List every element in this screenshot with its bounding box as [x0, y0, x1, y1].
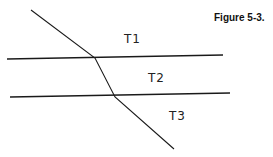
boundary-line-1 [7, 55, 223, 59]
layer-label-t1: T1 [124, 32, 141, 46]
boundary-line-2 [10, 93, 230, 97]
refraction-diagram [0, 0, 273, 157]
layer-label-t2: T2 [148, 71, 165, 85]
layer-label-t3: T3 [169, 109, 186, 123]
figure-caption: Figure 5-3. [214, 12, 265, 23]
diagram-canvas: Figure 5-3. T1 T2 T3 [0, 0, 273, 157]
